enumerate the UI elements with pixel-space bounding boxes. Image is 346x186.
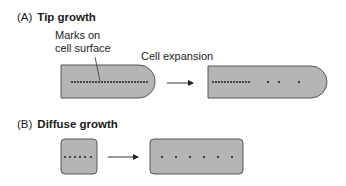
diagram-canvas: [0, 0, 346, 186]
tip-cell-after: [208, 66, 327, 98]
tip-cell-before: [61, 65, 155, 98]
diffuse-cell-before: [61, 139, 97, 174]
diffuse-cell-after: [150, 139, 243, 174]
